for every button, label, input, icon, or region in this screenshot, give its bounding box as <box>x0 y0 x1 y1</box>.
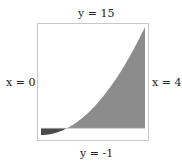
area-below-axis <box>41 128 67 135</box>
area-above-axis <box>67 27 145 128</box>
region-plot <box>40 26 146 138</box>
top-bound-label: y = 15 <box>78 7 114 20</box>
left-bound-label: x = 0 <box>6 76 35 89</box>
right-bound-label: x = 4 <box>152 76 181 89</box>
bottom-bound-label: y = -1 <box>80 147 113 160</box>
